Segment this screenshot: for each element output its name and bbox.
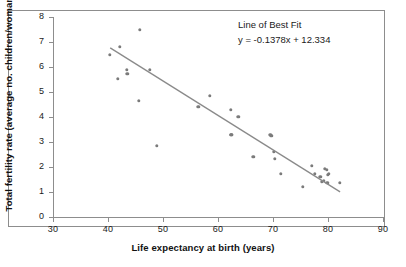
- y-tick: [49, 117, 53, 118]
- y-tick-label: 3: [28, 137, 44, 146]
- x-tick: [383, 218, 384, 222]
- x-tick-label: 80: [313, 224, 343, 234]
- y-tick: [49, 167, 53, 168]
- x-tick: [53, 218, 54, 222]
- y-tick-label: 7: [28, 37, 44, 46]
- x-tick-label: 60: [203, 224, 233, 234]
- y-tick: [49, 42, 53, 43]
- x-tick: [108, 218, 109, 222]
- x-tick: [273, 218, 274, 222]
- x-tick-label: 70: [258, 224, 288, 234]
- x-tick-label: 50: [148, 224, 178, 234]
- x-axis-title: Life expectancy at birth (years): [0, 242, 406, 253]
- y-tick-label: 6: [28, 62, 44, 71]
- y-axis-line: [53, 17, 54, 218]
- y-tick: [49, 142, 53, 143]
- annotation-title: Line of Best Fit: [238, 18, 330, 33]
- x-tick-label: 90: [368, 224, 398, 234]
- y-tick: [49, 217, 53, 218]
- y-tick-label: 4: [28, 112, 44, 121]
- y-tick: [49, 92, 53, 93]
- y-tick-label: 0: [28, 212, 44, 221]
- x-tick-label: 40: [93, 224, 123, 234]
- annotation-equation: y = -0.1378x + 12.334: [238, 33, 330, 48]
- y-tick-label: 2: [28, 162, 44, 171]
- y-tick-label: 5: [28, 87, 44, 96]
- y-tick: [49, 17, 53, 18]
- y-tick: [49, 192, 53, 193]
- y-tick: [49, 67, 53, 68]
- x-tick: [328, 218, 329, 222]
- x-tick: [163, 218, 164, 222]
- y-axis-title: Total fertility rate (average no. childr…: [3, 12, 14, 212]
- y-tick-label: 8: [28, 12, 44, 21]
- x-tick-label: 30: [38, 224, 68, 234]
- annotation-box: Line of Best Fit y = -0.1378x + 12.334: [238, 18, 330, 47]
- chart-figure: 30405060708090 012345678 Line of Best Fi…: [0, 0, 406, 267]
- y-tick-label: 1: [28, 187, 44, 196]
- x-tick: [218, 218, 219, 222]
